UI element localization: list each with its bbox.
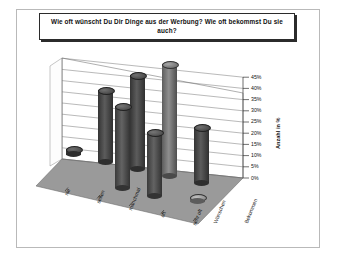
y-tick-15: 15%: [251, 141, 261, 147]
y-tick-40: 40%: [251, 85, 261, 91]
y-tick-30: 30%: [251, 107, 261, 113]
chart-title-box: Wie oft wünscht Du Dir Dinge aus der Wer…: [39, 13, 295, 40]
chart-title: Wie oft wünscht Du Dir Dinge aus der Wer…: [40, 18, 294, 35]
y-tick-20: 20%: [251, 130, 261, 136]
bar-bekommen-sehr-oft: [190, 194, 205, 204]
y-tick-25: 25%: [251, 118, 261, 124]
bar-bekommen-oft: [147, 129, 162, 199]
bar-wuenschen-sehr-oft: [194, 124, 209, 186]
bar-wuenschen-manchmal: [130, 72, 145, 172]
bar-wuenschen-oft: [162, 61, 177, 179]
bar-wuenschen-nie: [66, 146, 81, 157]
y-tick-10: 10%: [251, 152, 261, 158]
bar-bekommen-manchmal: [115, 103, 130, 191]
y-tick-0: 0%: [251, 175, 259, 181]
y-tick-5: 5%: [251, 163, 259, 169]
y-tick-35: 35%: [251, 96, 261, 102]
y-axis-title: Anzahl in %: [275, 118, 281, 149]
chart-bars: [30, 46, 305, 246]
slide-screenshot: Wie oft wünscht Du Dir Dinge aus der Wer…: [0, 0, 337, 259]
chart-area: 45% 40% 35% 30% 25% 20% 15% 10% 5% 0% An…: [30, 46, 305, 246]
y-tick-45: 45%: [251, 74, 261, 80]
bar-wuenschen-selten: [98, 87, 113, 165]
